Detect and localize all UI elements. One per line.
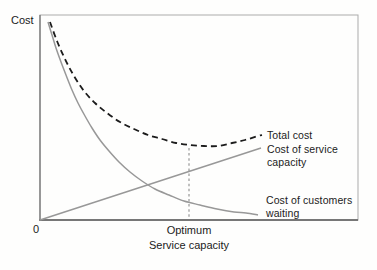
service-capacity-curve-label: Cost of service capacity [267,143,347,169]
curve-cost-of-customers-waiting [48,22,258,215]
y-axis-label: Cost [11,14,34,26]
curve-cost-of-service-capacity [40,148,261,220]
customers-waiting-curve-label: Cost of customers waiting [266,194,362,220]
optimum-tick-label: Optimum [164,224,214,236]
x-axis-label: Service capacity [149,239,229,251]
total-cost-curve-label: Total cost [267,129,312,142]
origin-tick-label: 0 [33,223,39,235]
curve-total-cost [50,22,262,146]
plot-frame [40,15,358,220]
cost-capacity-chart: Cost 0 Optimum Service capacity Total co… [0,0,377,270]
